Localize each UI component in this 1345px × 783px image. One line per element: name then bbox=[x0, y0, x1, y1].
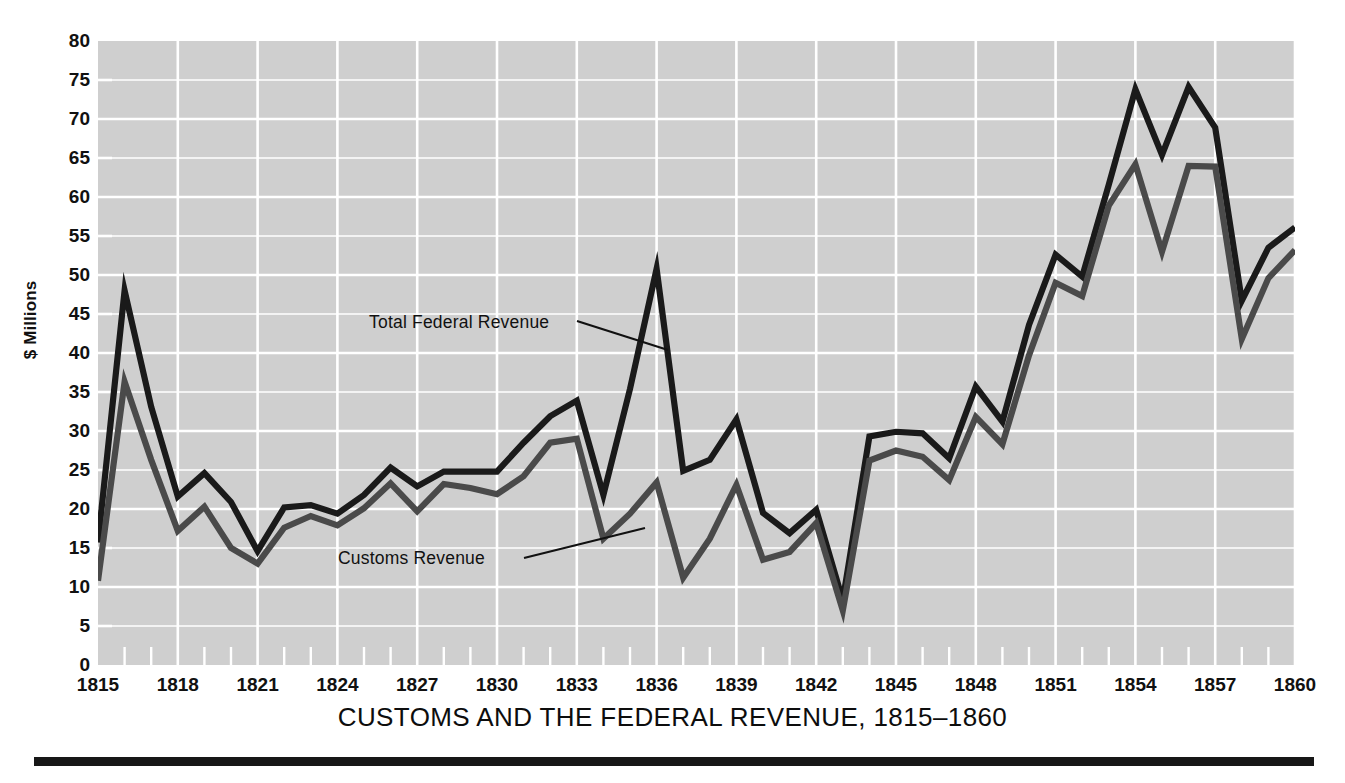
annotation-total-federal-revenue: Total Federal Revenue bbox=[369, 312, 549, 333]
x-tick-label: 1848 bbox=[931, 675, 1021, 694]
x-tick-label: 1851 bbox=[1011, 675, 1101, 694]
annotation-customs-revenue: Customs Revenue bbox=[338, 548, 485, 569]
x-tick-label: 1824 bbox=[292, 675, 382, 694]
x-tick-label: 1815 bbox=[53, 675, 143, 694]
bottom-rule bbox=[34, 757, 1314, 766]
x-tick-label: 1857 bbox=[1170, 675, 1260, 694]
x-tick-label: 1836 bbox=[612, 675, 702, 694]
x-tick-label: 1818 bbox=[133, 675, 223, 694]
chart-title: CUSTOMS AND THE FEDERAL REVENUE, 1815–18… bbox=[0, 702, 1345, 733]
chart-figure: $ Millions 05101520253035404550556065707… bbox=[0, 0, 1345, 783]
x-tick-label: 1830 bbox=[452, 675, 542, 694]
x-tick-label: 1845 bbox=[851, 675, 941, 694]
x-tick-label: 1860 bbox=[1250, 675, 1340, 694]
x-tick-label: 1833 bbox=[532, 675, 622, 694]
x-tick-label: 1842 bbox=[771, 675, 861, 694]
x-tick-label: 1854 bbox=[1090, 675, 1180, 694]
x-axis-ticks: 1815181818211824182718301833183618391842… bbox=[0, 0, 1345, 783]
x-tick-label: 1821 bbox=[213, 675, 303, 694]
x-tick-label: 1827 bbox=[372, 675, 462, 694]
x-tick-label: 1839 bbox=[691, 675, 781, 694]
